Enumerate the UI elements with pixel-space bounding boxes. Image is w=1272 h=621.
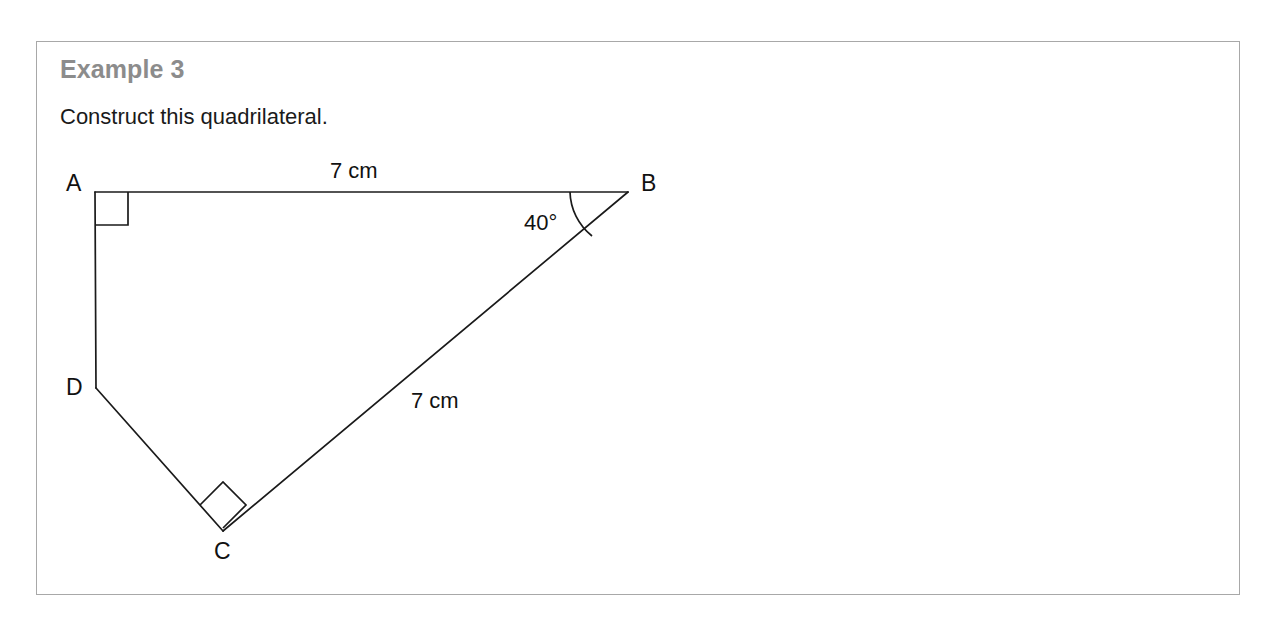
dimension-label-ab: 7 cm xyxy=(330,160,378,182)
dimension-label-bc: 7 cm xyxy=(411,390,459,412)
angle-label-b: 40° xyxy=(524,212,557,234)
vertex-label-b: B xyxy=(641,172,656,195)
vertex-label-a: A xyxy=(66,172,81,195)
example-heading: Example 3 xyxy=(60,55,185,84)
vertex-label-c: C xyxy=(214,540,231,563)
page-canvas: Example 3 Construct this quadrilateral. … xyxy=(0,0,1272,621)
vertex-label-d: D xyxy=(66,376,83,399)
example-prompt: Construct this quadrilateral. xyxy=(60,104,328,130)
